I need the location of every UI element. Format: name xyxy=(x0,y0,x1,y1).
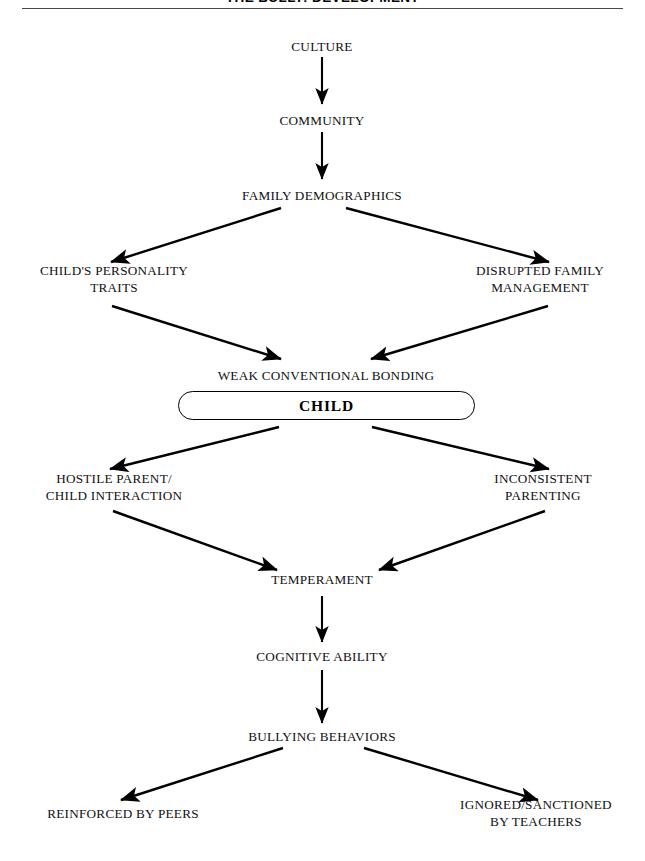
arrow-family-disrupted xyxy=(346,208,549,262)
arrow-hostile-temperament xyxy=(113,511,277,570)
node-family-demographics[interactable]: FAMILY DEMOGRAPHICS xyxy=(192,188,452,205)
page-title-bar: THE BULLY: DEVELOPMENT xyxy=(0,0,645,11)
node-disrupted-family-management[interactable]: DISRUPTED FAMILY MANAGEMENT xyxy=(440,263,640,296)
node-temperament[interactable]: TEMPERAMENT xyxy=(222,572,422,589)
node-community[interactable]: COMMUNITY xyxy=(222,113,422,130)
arrow-child-hostile xyxy=(110,427,279,469)
node-cognitive-ability[interactable]: COGNITIVE ABILITY xyxy=(212,649,432,666)
diagram-page: THE BULLY: DEVELOPMENT xyxy=(0,0,645,861)
node-child[interactable]: CHILD xyxy=(178,396,475,415)
node-ignored-sanctioned-by-teachers[interactable]: IGNORED/SANCTIONED BY TEACHERS xyxy=(432,797,640,830)
node-bullying-behaviors[interactable]: BULLYING BEHAVIORS xyxy=(207,729,437,746)
arrow-disrupted-bonding xyxy=(371,306,548,359)
arrow-inconsistent-temperament xyxy=(379,511,545,570)
title-divider xyxy=(22,8,623,9)
arrow-personality-bonding xyxy=(112,306,281,359)
arrow-bullying-reinforced xyxy=(121,748,283,800)
node-reinforced-by-peers[interactable]: REINFORCED BY PEERS xyxy=(8,806,238,823)
arrow-family-personality xyxy=(111,208,281,262)
node-childs-personality-traits[interactable]: CHILD'S PERSONALITY TRAITS xyxy=(8,263,220,296)
page-title: THE BULLY: DEVELOPMENT xyxy=(0,0,645,5)
node-inconsistent-parenting[interactable]: INCONSISTENT PARENTING xyxy=(448,471,638,504)
node-culture[interactable]: CULTURE xyxy=(222,39,422,56)
arrow-child-inconsistent xyxy=(372,427,549,469)
arrow-bullying-ignored xyxy=(364,748,538,800)
node-hostile-parent-child-interaction[interactable]: HOSTILE PARENT/ CHILD INTERACTION xyxy=(8,471,220,504)
node-weak-conventional-bonding[interactable]: WEAK CONVENTIONAL BONDING xyxy=(176,368,476,385)
